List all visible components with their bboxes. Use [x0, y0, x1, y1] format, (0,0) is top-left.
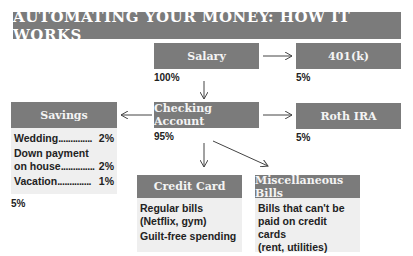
arrow-checking-to-misc	[213, 141, 268, 166]
flow-arrows	[0, 0, 413, 256]
